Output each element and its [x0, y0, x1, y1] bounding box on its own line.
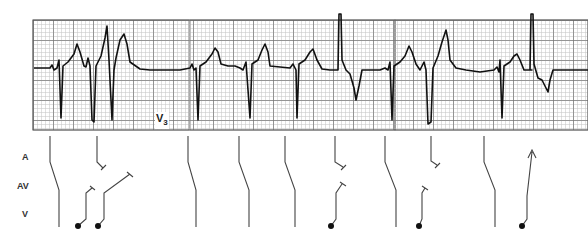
ladder-conducted-beat: [285, 136, 295, 227]
ladder-ventricular-echo: [98, 172, 133, 226]
ladder-ventricular-echo: [78, 186, 95, 226]
ladder-conducted-beat: [50, 136, 59, 227]
ladder-conducted-beat: [385, 136, 396, 227]
ladder-atrial-blocked: [97, 136, 106, 170]
ladder-conducted-beat: [188, 136, 196, 227]
ladder-diagram: [50, 136, 536, 229]
ladder-atrial-blocked: [335, 136, 346, 170]
ladder-conducted-beat: [239, 136, 249, 227]
ladder-row-label-v: V: [22, 209, 28, 219]
ladder-ventricular-echo: [419, 186, 428, 226]
ventricular-origin-dot: [95, 223, 101, 229]
ventricular-origin-dot: [519, 223, 525, 229]
ventricular-origin-dot: [328, 223, 334, 229]
ecg-grid-full: [33, 20, 588, 130]
lead-label: V3: [155, 112, 169, 129]
ladder-retrograde-arrow: [522, 150, 536, 226]
ladder-row-label-av: AV: [17, 181, 29, 191]
ventricular-origin-dot: [75, 223, 81, 229]
ladder-conducted-beat: [484, 136, 495, 227]
ladder-atrial-blocked: [431, 136, 440, 168]
ecg-strip: [33, 14, 588, 130]
ladder-row-label-a: A: [22, 152, 29, 162]
ecg-diagram: [0, 0, 588, 236]
ladder-ventricular-echo: [331, 182, 346, 226]
ventricular-origin-dot: [416, 223, 422, 229]
